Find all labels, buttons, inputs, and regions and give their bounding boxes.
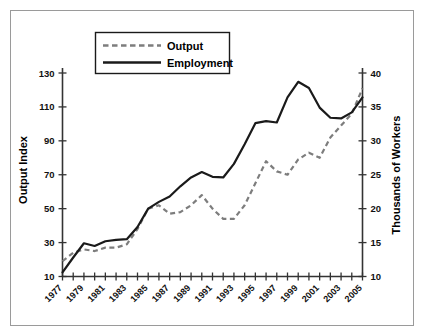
x-tick-label: 1999 xyxy=(278,283,299,304)
right-tick-label: 30 xyxy=(371,135,382,146)
right-tick-label: 10 xyxy=(371,271,382,282)
series-line-employment xyxy=(63,82,363,273)
x-tick-label: 1997 xyxy=(257,283,278,304)
left-axis-title: Output Index xyxy=(17,135,29,204)
left-tick-label: 10 xyxy=(44,271,55,282)
x-tick-label: 1991 xyxy=(193,283,214,304)
right-tick-label: 25 xyxy=(371,169,382,180)
x-tick-label: 1977 xyxy=(43,283,64,304)
x-tick-label: 2003 xyxy=(321,283,342,304)
left-tick-label: 30 xyxy=(44,237,55,248)
x-tick-label: 1987 xyxy=(150,283,171,304)
x-tick-label: 1995 xyxy=(236,283,257,304)
x-axis-tick-labels: 1977197919811983198519871989199119931995… xyxy=(43,283,364,304)
x-tick-label: 1981 xyxy=(86,283,107,304)
right-tick-label: 40 xyxy=(371,68,382,79)
right-tick-label: 35 xyxy=(371,101,382,112)
legend-label-output: Output xyxy=(167,40,203,52)
legend-label-employment: Employment xyxy=(167,57,233,69)
x-tick-label: 1979 xyxy=(64,283,85,304)
line-chart-plot: 1030507090110130 10152025303540 19771979… xyxy=(0,0,424,336)
left-tick-label: 110 xyxy=(39,101,54,112)
chart-figure: 1030507090110130 10152025303540 19771979… xyxy=(0,0,424,336)
x-tick-label: 2001 xyxy=(300,283,321,304)
left-tick-label: 130 xyxy=(39,68,55,79)
x-tick-label: 2005 xyxy=(343,283,364,304)
left-tick-label: 90 xyxy=(44,135,55,146)
left-tick-label: 70 xyxy=(44,169,55,180)
x-tick-label: 1993 xyxy=(214,283,235,304)
right-tick-label: 15 xyxy=(371,237,382,248)
right-axis-title: Thousands of Workers xyxy=(390,116,402,235)
chart-legend: Output Employment xyxy=(96,33,234,74)
right-tick-label: 20 xyxy=(371,203,382,214)
left-tick-label: 50 xyxy=(44,203,55,214)
x-tick-label: 1985 xyxy=(128,283,149,304)
x-tick-label: 1983 xyxy=(107,283,128,304)
x-tick-label: 1989 xyxy=(171,283,192,304)
series-line-output xyxy=(63,88,363,261)
